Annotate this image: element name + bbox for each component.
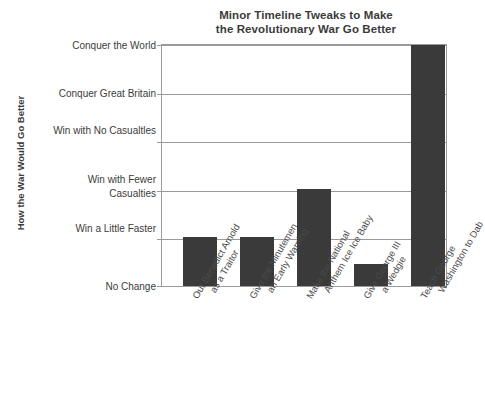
x-tick-label-give-the-minutemen: Give the Minutemen an Early Warning — [247, 220, 310, 306]
x-tick-label-out-benedict-arnold: Out Benedict Arnold as a Traitor — [190, 222, 252, 307]
x-tick-label-give-george-iii-a-wedgie: Give George III a Wedgie — [361, 239, 413, 306]
x-tick-label-teach-george-washington-to-dab: Teach George Washington to Dab — [418, 213, 485, 306]
